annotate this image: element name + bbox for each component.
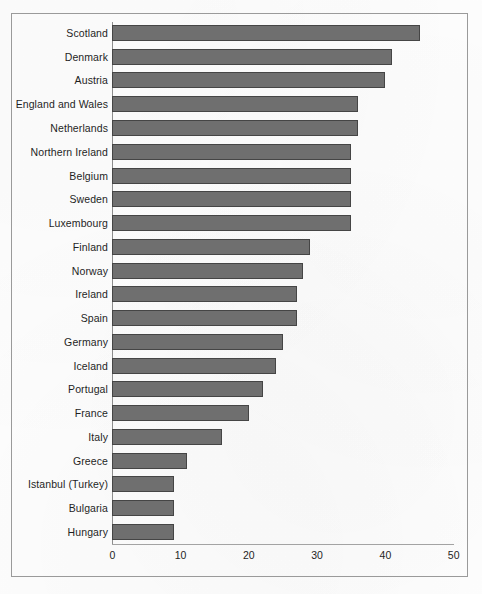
bar-row: Spain [0,306,482,330]
bar [112,381,262,397]
category-label: Greece [73,455,108,466]
bar [112,25,419,41]
category-label: Iceland [73,360,108,371]
category-label: Ireland [75,289,108,300]
category-label: Norway [72,265,108,276]
x-axis-tick-label: 10 [175,550,187,561]
bar [112,476,173,492]
x-axis-tick-label: 40 [380,550,392,561]
bar [112,49,392,65]
bar [112,500,173,516]
bar [112,310,296,326]
bar-row: Greece [0,449,482,473]
x-axis-tick-label: 30 [311,550,323,561]
bar [112,429,221,445]
bar-row: Denmark [0,45,482,69]
bar-row: Norway [0,259,482,283]
category-label: Luxembourg [49,218,108,229]
bar-row: Scotland [0,21,482,45]
bar-row: Istanbul (Turkey) [0,473,482,497]
x-axis-tick-label: 50 [448,550,460,561]
bar [112,263,303,279]
bar [112,524,173,540]
category-label: Denmark [65,51,108,62]
bar [112,120,358,136]
bar [112,144,351,160]
bar-row: Germany [0,330,482,354]
plot-area: ScotlandDenmarkAustriaEngland and WalesN… [0,0,482,594]
x-axis-tick-label: 20 [243,550,255,561]
x-axis-tick-label: 0 [109,550,115,561]
category-label: Northern Ireland [31,147,108,158]
bar-row: Bulgaria [0,496,482,520]
category-label: Scotland [66,28,108,39]
category-label: Finland [73,242,108,253]
category-label: Portugal [68,384,108,395]
bar-row: Luxembourg [0,211,482,235]
bar-row: Northern Ireland [0,140,482,164]
bar [112,168,351,184]
category-label: Belgium [69,170,108,181]
bar [112,453,187,469]
bar-row: Italy [0,425,482,449]
bar [112,286,296,302]
bar-row: Austria [0,69,482,93]
x-axis-line [112,544,454,545]
bar [112,358,276,374]
category-label: Italy [88,432,108,443]
category-label: Istanbul (Turkey) [28,479,108,490]
category-label: Austria [75,75,108,86]
bar-row: Hungary [0,520,482,544]
bar-row: Portugal [0,378,482,402]
bar-row: Ireland [0,282,482,306]
bar [112,72,385,88]
bar-row: Netherlands [0,116,482,140]
bar-row: Iceland [0,354,482,378]
bar-row: Sweden [0,187,482,211]
category-label: Spain [81,313,108,324]
bar-row: Finland [0,235,482,259]
bar-row: England and Wales [0,92,482,116]
bar [112,215,351,231]
category-label: England and Wales [16,99,108,110]
category-label: Sweden [69,194,108,205]
bar [112,405,249,421]
category-label: Bulgaria [69,503,108,514]
category-label: Netherlands [50,123,108,134]
bar [112,191,351,207]
bar-row: Belgium [0,164,482,188]
category-label: France [75,408,108,419]
bar [112,334,283,350]
bar [112,239,310,255]
category-label: Germany [64,337,108,348]
category-label: Hungary [68,527,108,538]
bar-chart-figure: ScotlandDenmarkAustriaEngland and WalesN… [0,0,482,594]
bar-row: France [0,401,482,425]
bar [112,96,358,112]
